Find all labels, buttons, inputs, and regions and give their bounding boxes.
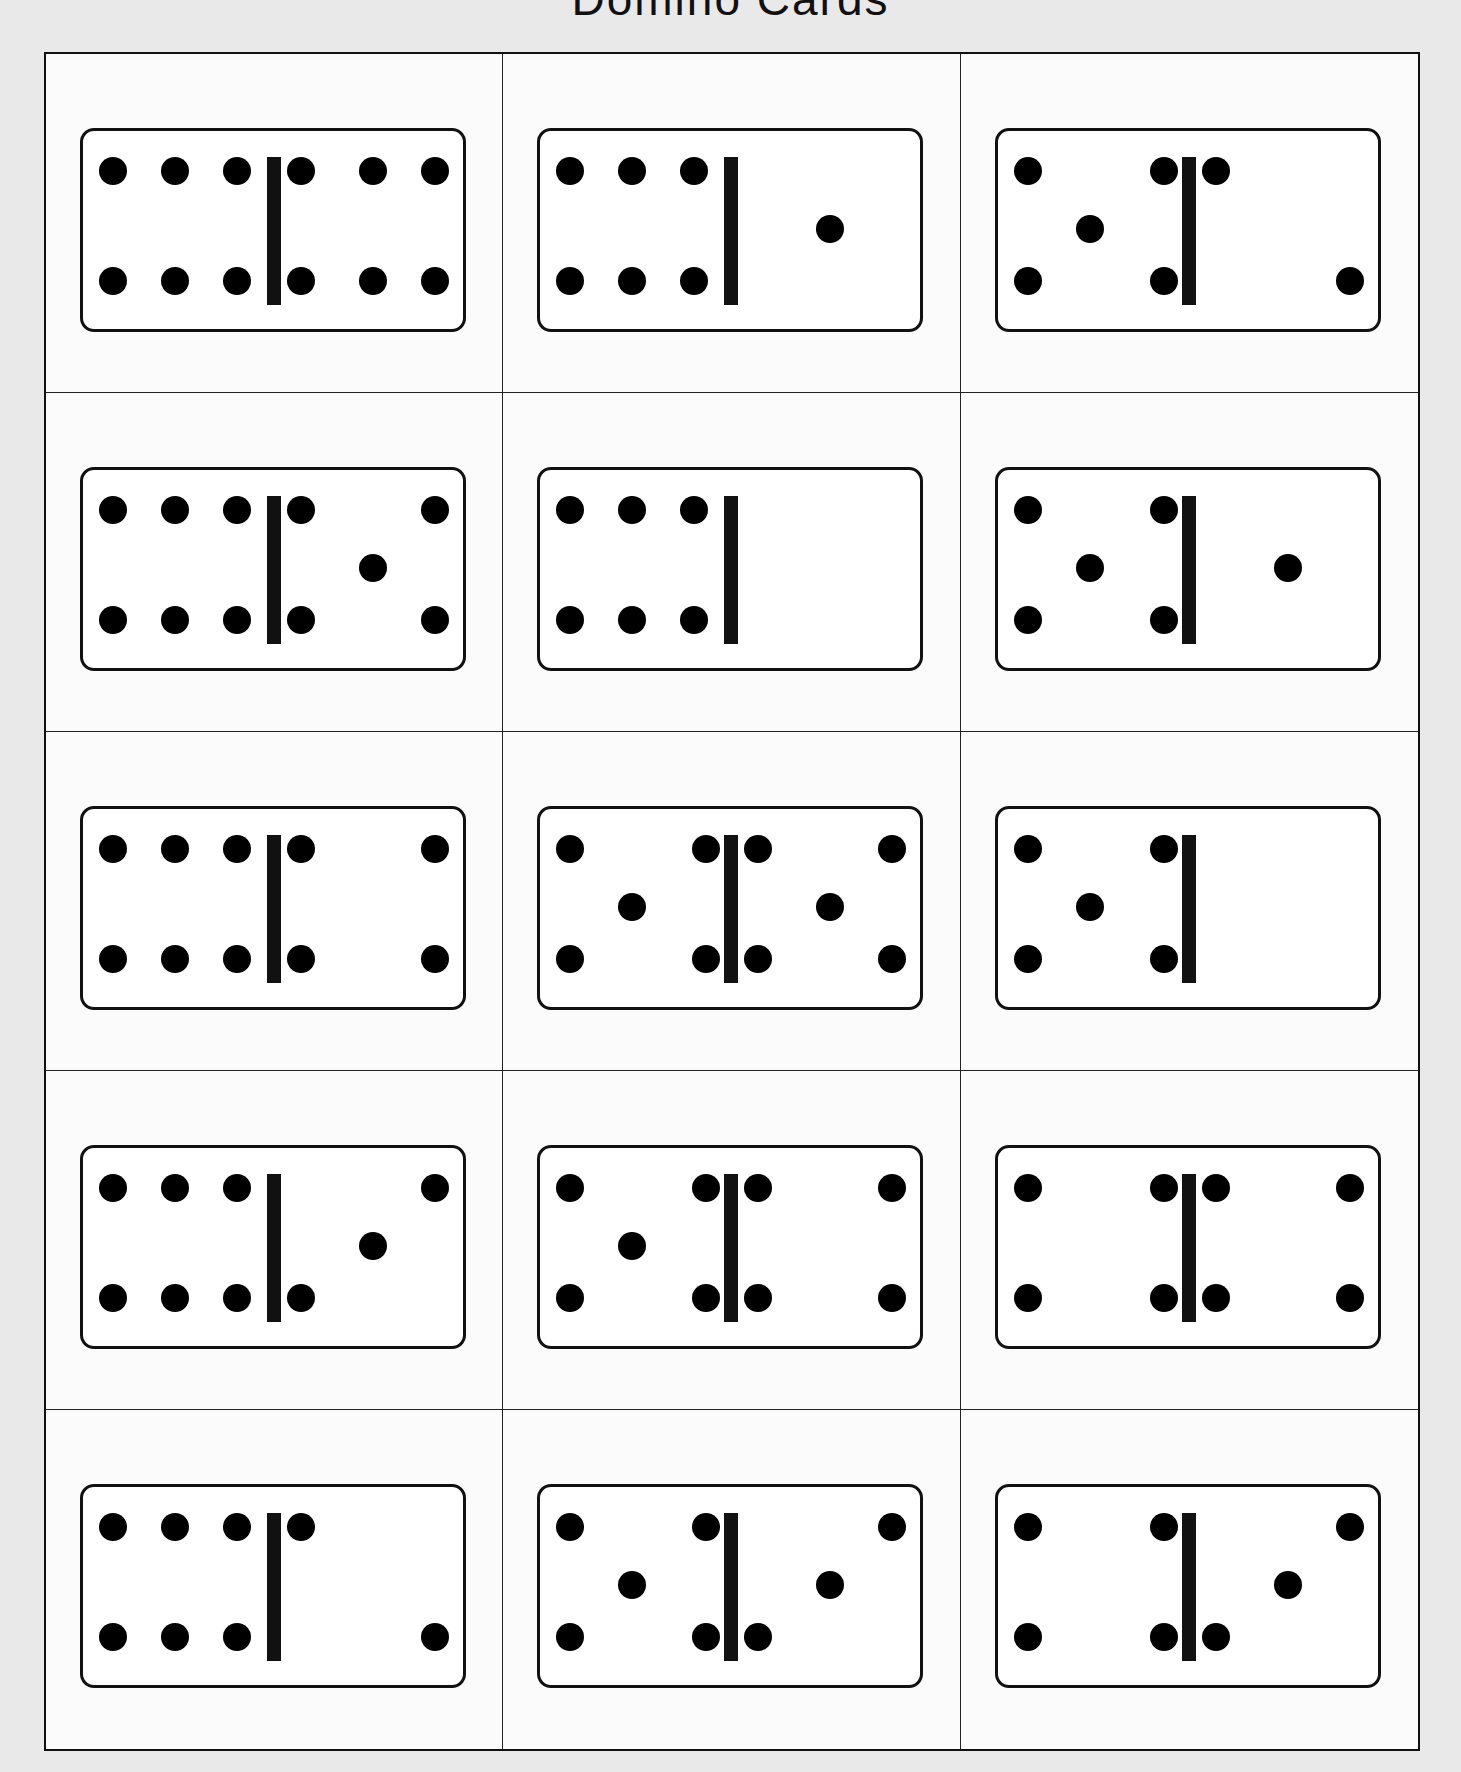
- domino-tile-5-3: [537, 1484, 923, 1688]
- domino-card: [503, 393, 960, 732]
- pip-dot-icon: [556, 1174, 584, 1202]
- pip-dot-icon: [1076, 215, 1104, 243]
- pip-dot-icon: [1274, 1571, 1302, 1599]
- pip-dot-icon: [1150, 835, 1178, 863]
- pip-dot-icon: [556, 267, 584, 295]
- domino-divider-bar: [1182, 157, 1196, 305]
- pip-dot-icon: [556, 835, 584, 863]
- domino-left-half: [540, 1487, 724, 1685]
- domino-card: [503, 732, 960, 1071]
- pip-dot-icon: [359, 1232, 387, 1260]
- pip-dot-icon: [1202, 157, 1230, 185]
- domino-right-half: [281, 809, 465, 1007]
- pip-dot-icon: [359, 267, 387, 295]
- domino-right-half: [738, 1487, 922, 1685]
- pip-dot-icon: [223, 835, 251, 863]
- pip-dot-icon: [1202, 1174, 1230, 1202]
- pip-dot-icon: [287, 1513, 315, 1541]
- domino-tile-6-2: [80, 1484, 466, 1688]
- pip-dot-icon: [1336, 267, 1364, 295]
- pip-dot-icon: [1202, 1623, 1230, 1651]
- pip-dot-icon: [1150, 945, 1178, 973]
- pip-dot-icon: [99, 1513, 127, 1541]
- pip-dot-icon: [618, 606, 646, 634]
- domino-divider-bar: [724, 496, 738, 644]
- pip-dot-icon: [618, 1571, 646, 1599]
- pip-dot-icon: [692, 835, 720, 863]
- domino-tile-6-0: [537, 467, 923, 671]
- domino-divider-bar: [724, 157, 738, 305]
- pip-dot-icon: [99, 606, 127, 634]
- domino-divider-bar: [1182, 496, 1196, 644]
- pip-dot-icon: [99, 945, 127, 973]
- pip-dot-icon: [1336, 1284, 1364, 1312]
- pip-dot-icon: [816, 893, 844, 921]
- domino-card: [961, 1071, 1418, 1410]
- pip-dot-icon: [618, 267, 646, 295]
- domino-right-half: [1196, 470, 1380, 668]
- pip-dot-icon: [99, 496, 127, 524]
- domino-card: [46, 54, 503, 393]
- domino-right-half: [1196, 1487, 1380, 1685]
- domino-tile-6-4: [80, 806, 466, 1010]
- domino-card: [503, 54, 960, 393]
- pip-dot-icon: [556, 157, 584, 185]
- domino-card: [503, 1410, 960, 1749]
- pip-dot-icon: [1150, 157, 1178, 185]
- domino-left-half: [540, 1148, 724, 1346]
- domino-card: [46, 1071, 503, 1410]
- domino-left-half: [998, 1487, 1182, 1685]
- pip-dot-icon: [359, 554, 387, 582]
- pip-dot-icon: [556, 496, 584, 524]
- domino-left-half: [83, 809, 267, 1007]
- domino-right-half: [1196, 1148, 1380, 1346]
- domino-left-half: [540, 470, 724, 668]
- pip-dot-icon: [223, 1513, 251, 1541]
- pip-dot-icon: [223, 496, 251, 524]
- domino-card: [961, 1410, 1418, 1749]
- domino-left-half: [998, 470, 1182, 668]
- domino-right-half: [738, 809, 922, 1007]
- pip-dot-icon: [223, 1623, 251, 1651]
- pip-dot-icon: [744, 1284, 772, 1312]
- pip-dot-icon: [161, 267, 189, 295]
- domino-divider-bar: [267, 835, 281, 983]
- domino-left-half: [83, 1148, 267, 1346]
- domino-tile-5-1: [995, 467, 1381, 671]
- domino-divider-bar: [1182, 1513, 1196, 1661]
- pip-dot-icon: [618, 893, 646, 921]
- domino-right-half: [738, 470, 922, 668]
- pip-dot-icon: [287, 1284, 315, 1312]
- domino-card: [961, 393, 1418, 732]
- pip-dot-icon: [680, 496, 708, 524]
- pip-dot-icon: [692, 1623, 720, 1651]
- pip-dot-icon: [878, 1284, 906, 1312]
- pip-dot-icon: [1014, 606, 1042, 634]
- pip-dot-icon: [421, 267, 449, 295]
- pip-dot-icon: [816, 1571, 844, 1599]
- pip-dot-icon: [287, 606, 315, 634]
- pip-dot-icon: [692, 945, 720, 973]
- domino-tile-5-0: [995, 806, 1381, 1010]
- pip-dot-icon: [556, 1623, 584, 1651]
- pip-dot-icon: [1150, 496, 1178, 524]
- domino-left-half: [998, 131, 1182, 329]
- domino-right-half: [281, 131, 465, 329]
- domino-divider-bar: [1182, 1174, 1196, 1322]
- pip-dot-icon: [556, 945, 584, 973]
- pip-dot-icon: [1150, 1623, 1178, 1651]
- domino-tile-5-2: [995, 128, 1381, 332]
- pip-dot-icon: [744, 1623, 772, 1651]
- domino-left-half: [998, 809, 1182, 1007]
- domino-right-half: [281, 1148, 465, 1346]
- domino-right-half: [1196, 809, 1380, 1007]
- domino-left-half: [540, 131, 724, 329]
- pip-dot-icon: [287, 157, 315, 185]
- pip-dot-icon: [161, 1513, 189, 1541]
- pip-dot-icon: [692, 1513, 720, 1541]
- pip-dot-icon: [287, 945, 315, 973]
- pip-dot-icon: [359, 157, 387, 185]
- pip-dot-icon: [680, 606, 708, 634]
- pip-dot-icon: [878, 1513, 906, 1541]
- pip-dot-icon: [1076, 554, 1104, 582]
